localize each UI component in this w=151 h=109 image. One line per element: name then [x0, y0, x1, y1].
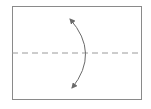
- diagram-svg: [0, 0, 151, 109]
- fold-diagram: Valley fold in half (bottom to top): [0, 0, 151, 109]
